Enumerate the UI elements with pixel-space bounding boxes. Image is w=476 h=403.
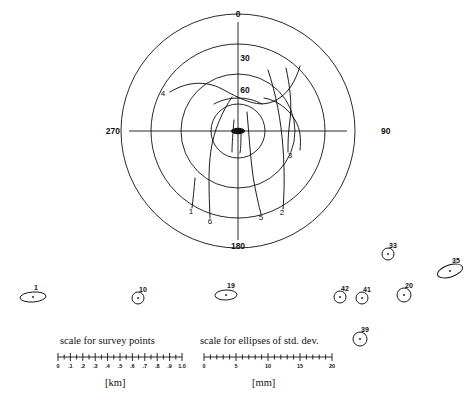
ellipse-marker-42-label: 42: [341, 285, 349, 292]
curve-label-4: 4: [161, 90, 165, 98]
polar-label-30: 30: [240, 54, 249, 63]
scale-survey-points-tick-label: .1: [68, 363, 73, 369]
deformation-curve-stub-b: [232, 120, 234, 152]
scale-survey-points-tick-label: 1.0: [178, 363, 186, 369]
deformation-curve-2: [268, 70, 284, 209]
scale-std-dev-ellipses-unit: [mm]: [252, 377, 275, 388]
scale-survey-points-bar: [58, 353, 182, 361]
scale-survey-points-tick-label: .6: [130, 363, 135, 369]
ellipse-center-dot: [387, 253, 389, 255]
ellipse-marker-41: [356, 292, 368, 304]
curve-label-3: 3: [288, 152, 292, 160]
ellipse-marker-10-label: 10: [139, 286, 147, 293]
ellipse-center-dot: [403, 294, 405, 296]
ellipse-marker-35-label: 35: [452, 257, 460, 264]
scale-survey-points-unit: [km]: [105, 377, 125, 388]
ellipse-marker-19-label: 19: [227, 282, 235, 289]
curve-label-5: 5: [259, 214, 263, 222]
polar-label-180: 180: [231, 242, 245, 251]
scale-std-dev-ellipses-tick-label: 20: [329, 363, 335, 369]
scale-survey-points-tick-label: .2: [81, 363, 86, 369]
ellipse-marker-20: [397, 288, 411, 302]
ellipse-marker-1-label: 1: [34, 284, 38, 291]
ellipse-marker-42: [334, 291, 346, 303]
ellipse-center-dot: [449, 270, 451, 272]
ellipse-center-dot: [361, 297, 363, 299]
ellipse-center-dot: [32, 296, 34, 298]
curve-label-1: 1: [189, 208, 193, 216]
scale-survey-points-title: scale for survey points: [60, 335, 155, 346]
scale-survey-points-tick-label: 0: [56, 363, 59, 369]
ellipse-marker-39-label: 39: [361, 326, 369, 333]
ellipse-marker-20-label: 20: [405, 282, 413, 289]
polar-label-0: 0: [236, 10, 241, 19]
deformation-curve-5: [247, 112, 261, 214]
scale-bar-layer: [58, 353, 332, 361]
polar-label-60: 60: [240, 86, 249, 95]
scale-survey-points-tick-label: .7: [143, 363, 148, 369]
ellipse-marker-19: [215, 290, 237, 301]
scale-survey-points-tick-label: .9: [167, 363, 172, 369]
scale-std-dev-ellipses-title: scale for ellipses of std. dev.: [200, 335, 319, 346]
scale-survey-points-tick-label: .5: [118, 363, 123, 369]
curve-label-2: 2: [280, 209, 284, 217]
scale-std-dev-ellipses-tick-label: 0: [202, 363, 205, 369]
ellipse-center-dot: [339, 296, 341, 298]
scale-std-dev-ellipses-tick-label: 5: [234, 363, 237, 369]
scale-std-dev-ellipses-tick-label: 10: [265, 363, 271, 369]
ellipse-marker-41-label: 41: [363, 286, 371, 293]
ellipse-marker-39: [353, 332, 367, 346]
ellipse-marker-33: [382, 248, 394, 260]
ellipse-marker-1: [20, 291, 47, 303]
ellipse-marker-33-label: 33: [389, 242, 397, 249]
scale-std-dev-ellipses-bar: [204, 353, 332, 361]
scale-survey-points-tick-label: .8: [155, 363, 160, 369]
curve-label-6: 6: [208, 218, 212, 226]
ellipse-marker-10: [132, 292, 144, 304]
ellipse-center-dot: [137, 297, 139, 299]
polar-label-270: 270: [106, 127, 120, 136]
deformation-curves: [170, 66, 300, 218]
polar-label-90: 90: [381, 127, 390, 136]
scale-survey-points-tick-label: .4: [105, 363, 110, 369]
scale-std-dev-ellipses-tick-label: 15: [297, 363, 303, 369]
deformation-curve-6: [209, 97, 232, 218]
ellipse-center-dot: [225, 294, 227, 296]
deformation-curve-1: [192, 178, 195, 208]
ellipse-center-dot: [359, 338, 361, 340]
scale-survey-points-tick-label: .3: [93, 363, 98, 369]
ellipse-marker-layer: [20, 248, 465, 346]
ellipse-marker-35: [436, 261, 464, 280]
